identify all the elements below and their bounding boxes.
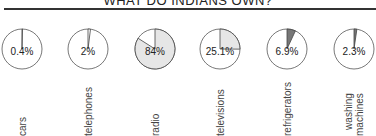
pie-value-label: 0.4%	[11, 46, 34, 57]
pie-washing-machines: 2.3%	[334, 29, 374, 69]
pie-charts: 0.4%2%84%25.1%6.9%2.3%	[0, 0, 376, 136]
pie-radio: 84%	[135, 29, 175, 69]
category-label: radio	[150, 114, 161, 136]
category-label: telephones	[83, 87, 94, 136]
pie-telephones: 2%	[68, 29, 108, 69]
pie-value-label: 2.3%	[343, 46, 366, 57]
pie-cars: 0.4%	[2, 29, 42, 69]
pie-value-label: 2%	[81, 46, 96, 57]
category-label: refrigerators	[282, 82, 293, 136]
pie-value-label: 25.1%	[206, 46, 234, 57]
category-label: cars	[17, 117, 28, 136]
pie-value-label: 6.9%	[276, 46, 299, 57]
pie-value-label: 84%	[145, 46, 165, 57]
pie-refrigerators: 6.9%	[267, 29, 307, 69]
category-label: washing machines	[343, 93, 365, 136]
pie-televisions: 25.1%	[200, 29, 240, 69]
category-label: televisions	[215, 89, 226, 136]
